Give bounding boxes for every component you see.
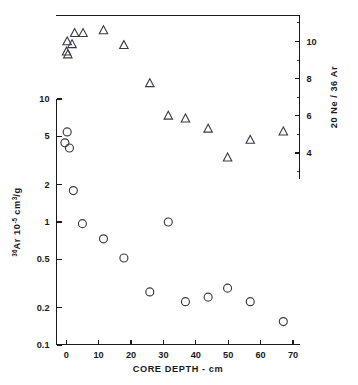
left-tick-label: 2 [44,180,49,190]
left-axis-ticklabels: 105210.50.20.1 [37,94,50,350]
right-tick-label: 6 [307,111,312,121]
data-point-circle [279,318,287,326]
right-tick-label: 4 [307,148,313,158]
right-axis-ticks [295,23,300,172]
data-point-circle [246,298,254,306]
chart-figure: 105210.50.20.1 46810 010203040506070 COR… [0,0,358,385]
x-tick-label: 30 [158,350,168,360]
right-axis-ticklabels: 46810 [307,37,317,158]
data-point-triangle [99,26,107,34]
data-point-circle [61,139,69,147]
left-axis-title: 36Ar 10-5 cm3/g [11,187,23,256]
right-tick-label: 10 [307,37,317,47]
x-axis-ticklabels: 010203040506070 [64,350,298,360]
data-point-circle [224,284,232,292]
data-point-triangle [223,153,231,161]
left-axis-title-text: 36Ar 10-5 cm3/g [11,187,23,256]
data-point-triangle [120,41,128,49]
data-point-triangle [79,29,87,37]
data-point-circle [146,288,154,296]
left-tick-label: 5 [44,131,49,141]
left-tick-label: 1 [44,217,49,227]
data-point-triangle [70,29,78,37]
x-tick-label: 60 [256,350,266,360]
data-point-circle [164,218,172,226]
data-point-triangle [181,114,189,122]
data-point-circle [78,220,86,228]
left-tick-label: 0.1 [37,340,50,350]
data-point-circle [65,144,73,152]
x-tick-label: 10 [94,350,104,360]
data-point-circle [69,187,77,195]
data-point-circle [63,128,71,136]
x-axis-title: CORE DEPTH - cm [133,364,224,374]
x-axis-title-text: CORE DEPTH - cm [133,364,224,374]
data-point-triangle [204,124,212,132]
scatter-plot-canvas: 105210.50.20.1 46810 010203040506070 COR… [0,0,358,385]
right-axis-title: 20Ne /36Ar [329,66,339,129]
plot-frame [56,16,300,346]
right-axis-title-text: 20Ne /36Ar [329,66,339,129]
x-tick-label: 20 [126,350,136,360]
left-tick-label: 0.2 [37,303,50,313]
series-36ar-circles [61,128,287,326]
left-tick-label: 0.5 [37,254,50,264]
x-tick-label: 0 [64,350,69,360]
data-point-circle [181,298,189,306]
x-tick-label: 70 [288,350,298,360]
data-point-triangle [164,111,172,119]
x-tick-label: 40 [191,350,201,360]
series-20ne36ar-triangles [62,26,287,161]
left-axis-ticks [57,99,62,345]
data-point-circle [204,293,212,301]
right-tick-label: 8 [307,74,312,84]
left-tick-label: 10 [39,94,49,104]
data-point-triangle [146,79,154,87]
data-point-triangle [246,135,254,143]
data-point-circle [120,254,128,262]
x-tick-label: 50 [223,350,233,360]
data-point-circle [99,235,107,243]
data-point-triangle [279,127,287,135]
